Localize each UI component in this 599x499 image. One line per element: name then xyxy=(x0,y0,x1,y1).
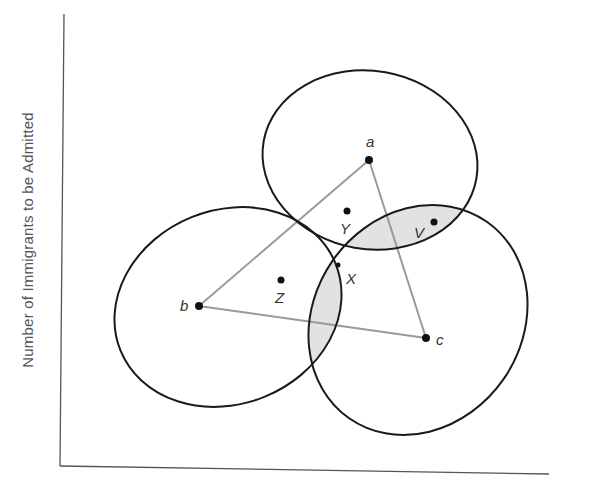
label-a: a xyxy=(366,133,374,150)
spatial-voting-diagram: a b c Y V Z X Number of Immigrants to be… xyxy=(0,0,599,499)
label-z: Z xyxy=(274,289,285,306)
point-y xyxy=(344,208,351,215)
label-b: b xyxy=(180,297,188,314)
point-v xyxy=(431,219,438,226)
label-y: Y xyxy=(340,220,351,237)
label-x: X xyxy=(345,270,357,287)
point-z xyxy=(278,277,285,284)
diagram-canvas: a b c Y V Z X xyxy=(0,0,599,499)
point-c xyxy=(422,334,430,342)
y-axis xyxy=(60,14,64,466)
y-axis-label: Number of Immigrants to be Admitted xyxy=(19,112,36,367)
point-a xyxy=(365,156,373,164)
point-x xyxy=(336,263,341,268)
label-c: c xyxy=(436,331,444,348)
point-b xyxy=(195,302,203,310)
x-axis xyxy=(60,466,549,474)
